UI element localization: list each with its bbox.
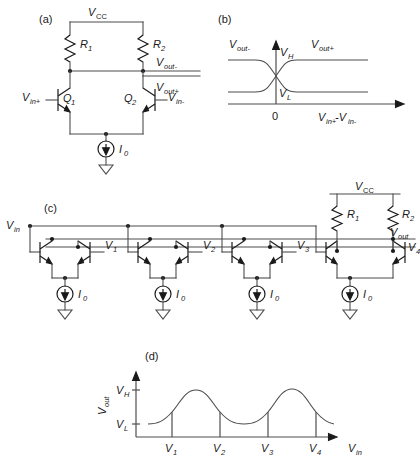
panel-b-x-label-b: -V (335, 111, 348, 123)
npn-transistor-icon (176, 241, 202, 264)
panel-d-output-curve (148, 389, 334, 424)
panel-c: (c) V CC R 1 R 2 V in V out (6, 180, 420, 319)
panel-c-r1-label: R (347, 208, 355, 220)
resistor-icon (332, 206, 342, 231)
panel-c-vout-sub: out (398, 232, 409, 241)
panel-c-stage3-i0-sub: 0 (275, 294, 280, 303)
junction-dot (391, 237, 395, 241)
panel-a-r2-sub: 2 (160, 44, 166, 53)
ground-icon (58, 310, 72, 319)
panel-d-x-axis-sub: in (356, 448, 362, 457)
current-source-icon (249, 286, 265, 302)
resistor-icon (65, 35, 75, 62)
panel-a-q2-sub: 2 (131, 98, 137, 107)
panel-b-x-arrow (396, 101, 405, 108)
panel-b-vout-plus-curve (228, 60, 368, 92)
npn-transistor-icon (270, 241, 296, 264)
current-source-icon (342, 286, 358, 302)
panel-c-stage2-i0-label: I (176, 288, 179, 300)
circuit-figure: (a) V CC R 1 R 2 V out- V out+ (0, 0, 420, 462)
panel-c-stage-3: V 3 I 0 (222, 226, 310, 319)
panel-b-x-sub-b: in- (348, 117, 357, 126)
panel-d-v4-sub: 4 (317, 448, 321, 457)
panel-c-stage-2: V 2 I 0 (128, 226, 216, 319)
junction-dot (50, 237, 54, 241)
panel-b-vout-minus-curve (228, 60, 368, 92)
panel-c-vin-sub: in (14, 225, 20, 234)
panel-c-stage2-ref-sub: 2 (210, 245, 216, 254)
panel-a-r1-label: R (80, 38, 88, 50)
panel-c-r1-sub: 1 (355, 214, 359, 223)
junction-dot (242, 237, 246, 241)
panel-b-vh-sub: H (288, 52, 294, 61)
npn-transistor-icon (326, 241, 337, 264)
resistor-icon (138, 35, 148, 62)
panel-d-x-arrow (329, 434, 338, 441)
npn-transistor-icon (40, 241, 52, 264)
panel-c-stage4-ref-sub: 4 (416, 247, 420, 256)
panel-a-r2-label: R (153, 38, 161, 50)
current-source-icon (98, 141, 114, 157)
panel-d-vout-sub: out (102, 396, 111, 407)
panel-d-v3-sub: 3 (269, 448, 274, 457)
panel-c-stage1-i0-sub: 0 (83, 294, 88, 303)
panel-a-i0-label: I (119, 143, 122, 155)
panel-a-r1-sub: 1 (88, 44, 92, 53)
panel-b-vl-sub: L (287, 93, 291, 102)
junction-dot (335, 249, 339, 253)
junction-dot (391, 249, 395, 253)
panel-a: (a) V CC R 1 R 2 V out- V out+ (22, 6, 200, 174)
panel-d: (d) V H V L V out V 1 V 2 V 3 V 4 V (96, 350, 362, 457)
ground-icon (156, 310, 170, 319)
panel-c-tag: (c) (44, 202, 57, 214)
junction-dot (174, 245, 178, 249)
panel-d-v1-sub: 1 (173, 448, 177, 457)
panel-d-vh-sub: H (124, 390, 130, 399)
panel-b-y-arrow (273, 41, 280, 50)
panel-c-stage1-ref-sub: 1 (113, 245, 117, 254)
junction-dot (76, 245, 80, 249)
panel-b-vout-plus-sub: out+ (319, 44, 334, 53)
panel-b-origin-label: 0 (272, 110, 278, 122)
current-source-icon (155, 286, 171, 302)
current-source-icon (57, 286, 73, 302)
panel-c-stage-1: V 1 I 0 (30, 226, 117, 319)
panel-a-vin-minus-sub: in- (176, 97, 185, 106)
panel-a-vcc-sub: CC (96, 12, 107, 21)
panel-b-tag: (b) (218, 13, 231, 25)
panel-a-q1-sub: 1 (71, 98, 75, 107)
panel-c-stage3-ref-sub: 3 (305, 245, 310, 254)
panel-d-vl-sub: L (124, 424, 128, 433)
panel-d-tag: (d) (145, 350, 158, 362)
panel-c-stage1-i0-label: I (78, 288, 81, 300)
panel-a-vin-plus-sub: in+ (30, 97, 41, 106)
npn-transistor-icon (393, 241, 405, 264)
panel-a-vout-minus-sub: out- (164, 62, 177, 71)
panel-c-stage2-i0-sub: 0 (181, 294, 186, 303)
npn-transistor-icon (78, 241, 104, 264)
panel-c-stage3-i0-label: I (270, 288, 273, 300)
ground-icon (343, 310, 357, 319)
panel-c-stage4-i0-sub: 0 (368, 294, 373, 303)
panel-c-r2-label: R (402, 208, 410, 220)
junction-dot (148, 237, 152, 241)
panel-c-r2-sub: 2 (409, 214, 415, 223)
ground-icon (99, 165, 113, 174)
panel-d-y-arrow (133, 372, 140, 381)
panel-b-vout-minus-sub: out- (237, 44, 250, 53)
panel-a-i0-sub: 0 (124, 149, 129, 158)
panel-a-tag: (a) (39, 13, 52, 25)
junction-dot (268, 245, 272, 249)
panel-d-y-axis-label: V out (96, 396, 111, 415)
panel-b: (b) V out- V out+ V H V L 0 V in+ -V in- (218, 13, 404, 126)
ground-icon (250, 310, 264, 319)
panel-d-v2-sub: 2 (220, 448, 226, 457)
npn-transistor-icon (232, 241, 244, 264)
panel-c-stage4-i0-label: I (363, 288, 366, 300)
npn-transistor-icon (138, 241, 150, 264)
